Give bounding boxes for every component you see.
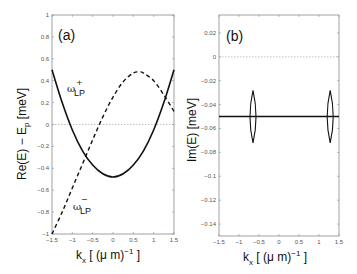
svg-text:LP: LP xyxy=(80,206,91,216)
x-tick-label: 1.5 xyxy=(170,237,179,243)
y-tick-label: 0 xyxy=(213,54,217,60)
svg-text:Re(E) − Ep [meV]: Re(E) − Ep [meV] xyxy=(15,88,31,180)
y-tick-label: −0.1 xyxy=(204,173,217,179)
y-tick-label: 0.2 xyxy=(41,100,50,106)
y-tick-label: 1 xyxy=(46,12,50,18)
x-tick-label: 0 xyxy=(277,239,281,245)
y-tick-label: −0.08 xyxy=(201,149,217,155)
x-tick-label: 1.5 xyxy=(335,239,344,245)
y-tick-label: −0.6 xyxy=(37,187,50,193)
plot-a-y-axis-label: Re(E) − Ep [meV] xyxy=(15,88,31,180)
x-tick-label: −1.5 xyxy=(46,237,59,243)
y-tick-label: −0.12 xyxy=(201,197,217,203)
plot-b: −0.14−0.12−0.1−0.08−0.06−0.04−0.0200.02 … xyxy=(185,15,344,267)
y-tick-label: −0.2 xyxy=(37,143,50,149)
figure: −1−0.8−0.6−0.4−0.200.20.40.60.81 −1.5−1−… xyxy=(0,0,357,274)
x-tick-label: 1 xyxy=(317,239,321,245)
panel-b-label: (b) xyxy=(226,28,243,44)
svg-text:Im(E) [meV]: Im(E) [meV] xyxy=(185,98,199,162)
x-tick-label: 0.5 xyxy=(129,237,138,243)
y-tick-label: −0.8 xyxy=(37,209,50,215)
plot-b-y-axis-label: Im(E) [meV] xyxy=(185,98,199,162)
svg-text:kx [ (μ m)−1 ]: kx [ (μ m)−1 ] xyxy=(243,249,307,267)
y-tick-label: 0 xyxy=(46,122,50,128)
y-tick-label: 0.4 xyxy=(41,78,50,84)
y-tick-label: −0.06 xyxy=(201,125,217,131)
plot-b-x-axis-label: kx [ (μ m)−1 ] xyxy=(243,249,307,267)
x-tick-label: 1 xyxy=(152,237,156,243)
x-tick-label: −1 xyxy=(236,239,244,245)
svg-text:−: − xyxy=(81,195,88,204)
y-tick-label: −0.4 xyxy=(37,165,50,171)
x-tick-label: −1.5 xyxy=(213,239,226,245)
svg-text:kx [ (μ m)−1 ]: kx [ (μ m)−1 ] xyxy=(76,247,140,265)
y-tick-label: 0.8 xyxy=(41,34,50,40)
plot-a: −1−0.8−0.6−0.4−0.200.20.40.60.81 −1.5−1−… xyxy=(15,12,179,265)
svg-text:+: + xyxy=(76,78,83,87)
y-tick-label: 0.02 xyxy=(204,30,216,36)
svg-text:LP: LP xyxy=(74,88,85,98)
plot-a-x-axis-label: kx [ (μ m)−1 ] xyxy=(76,247,140,265)
y-tick-label: −0.04 xyxy=(201,102,217,108)
y-tick-label: −0.02 xyxy=(201,78,217,84)
y-tick-label: −0.14 xyxy=(201,221,217,227)
x-tick-label: −1 xyxy=(69,237,77,243)
panel-a-label: (a) xyxy=(58,27,75,43)
plot-b-frame xyxy=(219,15,339,236)
x-tick-label: −0.5 xyxy=(253,239,266,245)
x-tick-label: −0.5 xyxy=(87,237,100,243)
x-tick-label: 0.5 xyxy=(295,239,304,245)
x-tick-label: 0 xyxy=(111,237,115,243)
y-tick-label: 0.6 xyxy=(41,56,50,62)
